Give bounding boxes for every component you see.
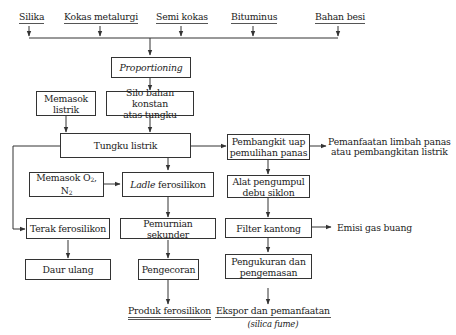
input-bahan-besi: Bahan besi [315,11,365,22]
box-pengecoran: Pengecoran [138,259,199,280]
box-daur-ulang: Daur ulang [25,259,111,280]
box-ladle-ferosilikon: Ladle ferosilikon [122,172,214,197]
output-produk-ferosilikon: Produk ferosilikon [128,305,211,316]
input-silika: Silika [19,11,44,22]
input-kokas-metalurgi: Kokas metalurgi [64,11,138,22]
box-pembangkit-uap: Pembangkit uap pemulihan panas [227,134,310,160]
output-emisi-gas-buang: Emisi gas buang [337,222,412,233]
output-ekspor-silica-fume: Ekspor dan pemanfaatan (silica fume) [215,305,331,330]
input-bituminus: Bituminus [231,11,277,22]
box-filter-kantong: Filter kantong [225,218,312,238]
box-tungku-listrik: Tungku listrik [60,133,191,158]
box-pengukuran: Pengukuran dan pengemasan [225,254,312,279]
connector-lines [0,0,456,335]
box-pemurnian-sekunder: Pemurnian sekunder [120,218,216,239]
box-proportioning: Proportioning [111,57,191,78]
box-memasok-o2-n2: Memasok O2, N2 [29,172,104,197]
box-silo-bahan: Silo bahan konstan atas tungku [106,91,194,116]
box-terak-ferosilikon: Terak ferosilikon [26,218,110,239]
input-semi-kokas: Semi kokas [156,11,208,22]
box-alat-pengumpul: Alat pengumpul debu siklon [227,175,310,198]
box-memasok-listrik: Memasok listrik [36,91,96,116]
output-pemanfaatan-limbah: Pemanfaatan limbah panas atau pembangkit… [328,137,451,157]
